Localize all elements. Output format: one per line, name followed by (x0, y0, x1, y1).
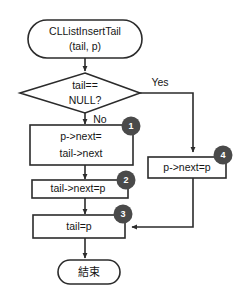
process2-line1: tail->next=p (51, 182, 106, 194)
badge-2-label: 2 (123, 175, 128, 185)
flowchart-diagram: CLListInsertTail (tail, p) tail== NULL? … (0, 0, 240, 297)
decision-node-line1: tail== (72, 79, 98, 91)
edge-process4-to-process3 (132, 178, 193, 227)
process3-line1: tail=p (66, 220, 92, 232)
start-node: CLListInsertTail (tail, p) (28, 20, 142, 58)
decision-node-line2: NULL? (69, 94, 102, 106)
process4-line1: p->next=p (163, 161, 210, 173)
edge-label-yes: Yes (151, 76, 168, 88)
process1-line1: p->next= (60, 130, 101, 142)
edge-label-no: No (93, 113, 107, 125)
start-node-line2: (tail, p) (69, 40, 101, 52)
decision-tail-null: tail== NULL? (20, 73, 140, 113)
end-node-line1: 結束 (78, 265, 100, 279)
process1-line2: tail->next (60, 147, 103, 159)
start-node-line1: CLListInsertTail (49, 25, 121, 37)
process-tail-p: tail=p 3 (33, 205, 133, 239)
badge-4-label: 4 (220, 150, 225, 160)
process-p-next-p: p->next=p 4 (148, 146, 233, 179)
edge-yes-decision-to-process4 (140, 93, 193, 152)
flowchart-canvas: CLListInsertTail (tail, p) tail== NULL? … (0, 0, 240, 297)
end-node: 結束 (58, 260, 120, 284)
badge-3-label: 3 (120, 209, 125, 219)
process-tail-next-p: tail->next=p 2 (32, 171, 136, 199)
badge-1-label: 1 (128, 121, 133, 131)
